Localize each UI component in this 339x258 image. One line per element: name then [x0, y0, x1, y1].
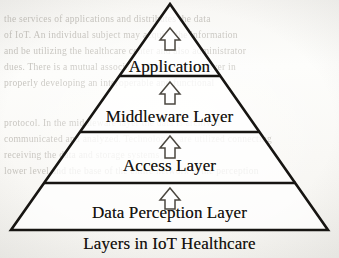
band-label-data-perception: Data Perception Layer: [0, 203, 339, 223]
iot-healthcare-layers-figure: the services of applications and distrib…: [0, 0, 339, 258]
band-label-access: Access Layer: [0, 156, 339, 176]
band-label-middleware: Middleware Layer: [0, 107, 339, 127]
band-label-application: Application: [0, 57, 339, 77]
figure-caption: Layers in IoT Healthcare: [0, 234, 339, 254]
